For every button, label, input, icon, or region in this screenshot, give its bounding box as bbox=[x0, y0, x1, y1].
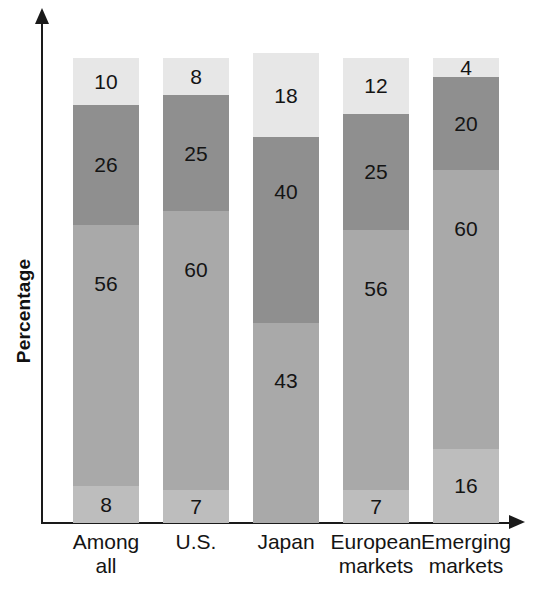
bar-segment-value-label: 56 bbox=[364, 278, 387, 299]
bar-segment-value-label: 4 bbox=[460, 57, 472, 78]
bar-group: 1026568 bbox=[73, 0, 139, 596]
bar-segment-value-label: 7 bbox=[190, 496, 202, 517]
bar-segment[interactable]: 25 bbox=[163, 95, 229, 211]
bar-segment-value-label: 43 bbox=[274, 370, 297, 391]
bar-segment[interactable]: 7 bbox=[163, 490, 229, 523]
bar-group: 1225567 bbox=[343, 0, 409, 596]
bar-segment-value-label: 7 bbox=[370, 496, 382, 517]
bar-group: 825607 bbox=[163, 0, 229, 596]
bar-segment[interactable]: 18 bbox=[253, 53, 319, 137]
bar-segment[interactable]: 8 bbox=[73, 486, 139, 523]
bar-segment-value-label: 25 bbox=[184, 143, 207, 164]
bar-stack: 1225567 bbox=[343, 58, 409, 523]
bar-segment[interactable]: 8 bbox=[163, 58, 229, 95]
bar-segment[interactable]: 16 bbox=[433, 449, 499, 523]
bar-segment[interactable]: 56 bbox=[73, 225, 139, 485]
bar-stack: 1026568 bbox=[73, 58, 139, 523]
bar-segment-value-label: 16 bbox=[454, 475, 477, 496]
bar-stack: 4206016 bbox=[433, 58, 499, 523]
bar-segment-value-label: 40 bbox=[274, 181, 297, 202]
bar-segment[interactable]: 7 bbox=[343, 490, 409, 523]
bar-group: 184043 bbox=[253, 0, 319, 596]
bar-segment-value-label: 20 bbox=[454, 113, 477, 134]
bar-segment[interactable]: 60 bbox=[163, 211, 229, 490]
bar-segment-value-label: 60 bbox=[184, 259, 207, 280]
plot-area: 1026568Among all825607U.S.184043Japan122… bbox=[0, 0, 534, 596]
x-axis-category-label: Emerging markets bbox=[403, 530, 529, 577]
bar-segment[interactable]: 56 bbox=[343, 230, 409, 490]
bar-segment[interactable]: 40 bbox=[253, 137, 319, 323]
bar-segment[interactable]: 20 bbox=[433, 77, 499, 170]
bar-segment-value-label: 8 bbox=[100, 494, 112, 515]
bar-segment-value-label: 8 bbox=[190, 66, 202, 87]
bar-segment-value-label: 56 bbox=[94, 273, 117, 294]
bar-group: 4206016 bbox=[433, 0, 499, 596]
stacked-bar-chart: Percentage 1026568Among all825607U.S.184… bbox=[0, 0, 534, 596]
bar-segment-value-label: 60 bbox=[454, 218, 477, 239]
bar-segment-value-label: 18 bbox=[274, 85, 297, 106]
bar-segment[interactable]: 43 bbox=[253, 323, 319, 523]
bar-segment[interactable]: 4 bbox=[433, 58, 499, 77]
bar-stack: 825607 bbox=[163, 58, 229, 523]
bar-segment[interactable]: 12 bbox=[343, 58, 409, 114]
bar-segment-value-label: 25 bbox=[364, 161, 387, 182]
bar-segment-value-label: 26 bbox=[94, 154, 117, 175]
bar-segment[interactable]: 60 bbox=[433, 170, 499, 449]
bar-segment-value-label: 10 bbox=[94, 71, 117, 92]
bar-segment[interactable]: 10 bbox=[73, 58, 139, 105]
bar-segment-value-label: 12 bbox=[364, 75, 387, 96]
bar-segment[interactable]: 25 bbox=[343, 114, 409, 230]
bar-segment[interactable]: 26 bbox=[73, 105, 139, 226]
bar-stack: 184043 bbox=[253, 53, 319, 523]
